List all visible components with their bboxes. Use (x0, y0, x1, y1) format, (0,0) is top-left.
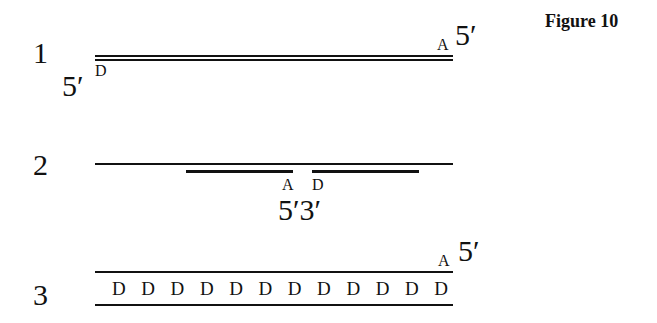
panel-2-base-D: D (312, 177, 324, 193)
d-base: D (112, 279, 126, 298)
panel-2-strand-top (95, 163, 453, 165)
panel-3-right-base-A: A (438, 253, 450, 269)
panel-2-number: 2 (33, 150, 48, 180)
panel-3-d-base-row: D D D D D D D D D D D D (112, 279, 448, 298)
panel-2-lower-segment-right (312, 170, 419, 173)
d-base: D (229, 279, 243, 298)
d-base: D (258, 279, 272, 298)
d-base: D (434, 279, 448, 298)
d-base: D (141, 279, 155, 298)
d-base: D (288, 279, 302, 298)
d-base: D (346, 279, 360, 298)
panel-1-right-5prime-label: 5′ (455, 20, 477, 50)
panel-1-strand-bottom (95, 59, 453, 61)
panel-1-left-5prime-label: 5′ (62, 71, 84, 101)
panel-1-left-base-D: D (95, 63, 107, 79)
panel-2-base-A: A (282, 177, 294, 193)
panel-1-right-base-A: A (437, 37, 449, 53)
d-base: D (376, 279, 390, 298)
d-base: D (405, 279, 419, 298)
d-base: D (171, 279, 185, 298)
panel-3-strand-top (95, 271, 453, 273)
panel-3-right-5prime-label: 5′ (458, 236, 480, 266)
panel-1-number: 1 (33, 38, 48, 68)
panel-3-number: 3 (33, 280, 48, 310)
d-base: D (200, 279, 214, 298)
panel-2-lower-segment-left (186, 170, 293, 173)
d-base: D (317, 279, 331, 298)
panel-2-5prime-3prime-label: 5′3′ (278, 195, 321, 225)
panel-1-strand-top (95, 55, 453, 57)
figure-title: Figure 10 (545, 12, 618, 30)
figure-canvas: Figure 10 1 5′ D A 5′ 2 A D 5′3′ 3 A 5′ … (0, 0, 657, 323)
panel-3-strand-bottom (95, 304, 453, 306)
